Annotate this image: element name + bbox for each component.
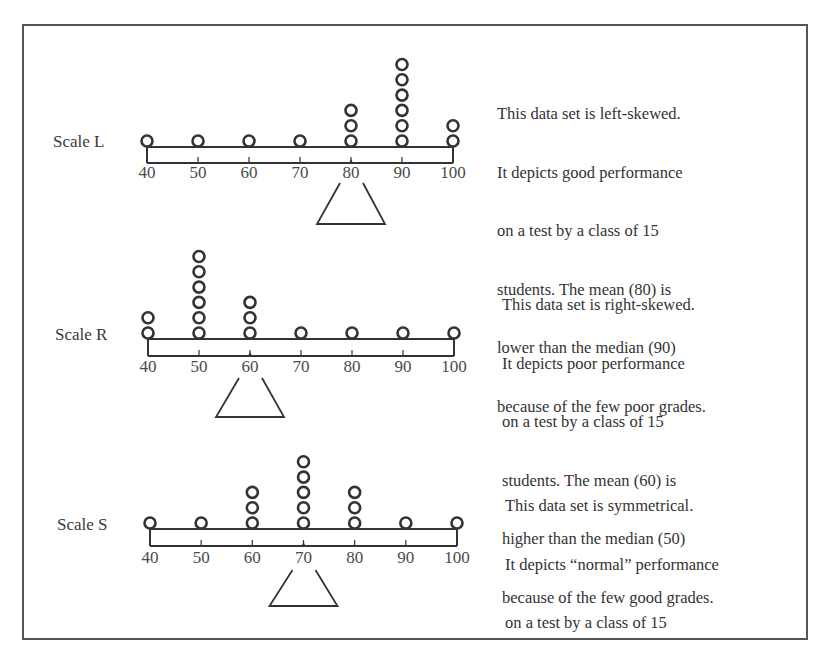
data-point-circle xyxy=(194,282,205,293)
data-point-circle xyxy=(143,312,154,323)
fulcrum-stand xyxy=(216,378,284,417)
desc-line: It depicts good performance xyxy=(497,163,706,183)
data-point-circle xyxy=(397,105,408,116)
desc-line: on a test by a class of 15 xyxy=(505,613,719,633)
data-point-circle xyxy=(298,502,309,513)
data-point-circle xyxy=(143,328,154,339)
fulcrum-stand xyxy=(270,570,338,606)
data-point-circle xyxy=(452,518,463,529)
tick-label: 70 xyxy=(295,548,312,567)
scale-label: Scale L xyxy=(53,132,104,151)
data-point-circle xyxy=(194,266,205,277)
scale-label: Scale S xyxy=(57,515,108,534)
data-point-circle xyxy=(194,251,205,262)
data-point-circle xyxy=(296,328,307,339)
tick-label: 40 xyxy=(140,357,157,376)
data-point-circle xyxy=(145,518,156,529)
data-point-circle xyxy=(298,456,309,467)
data-point-circle xyxy=(349,502,360,513)
data-point-circle xyxy=(298,518,309,529)
data-point-circle xyxy=(397,59,408,70)
tick-label: 70 xyxy=(292,163,309,182)
tick-label: 90 xyxy=(395,357,412,376)
fulcrum-pointer xyxy=(248,352,252,356)
tick-label: 60 xyxy=(241,163,258,182)
data-point-circle xyxy=(349,487,360,498)
data-point-circle xyxy=(298,472,309,483)
tick-label: 80 xyxy=(344,357,361,376)
desc-line: It depicts “normal” performance xyxy=(505,555,719,575)
desc-line: This data set is symmetrical. xyxy=(505,496,719,516)
fulcrum-stand xyxy=(317,183,385,224)
data-point-circle xyxy=(397,90,408,101)
data-point-circle xyxy=(196,518,207,529)
tick-label: 60 xyxy=(242,357,259,376)
fulcrum-pointer xyxy=(302,542,306,546)
data-point-circle xyxy=(247,518,258,529)
tick-label: 50 xyxy=(190,163,207,182)
tick-label: 80 xyxy=(343,163,360,182)
tick-label: 100 xyxy=(441,357,467,376)
data-point-circle xyxy=(346,120,357,131)
tick-label: 40 xyxy=(142,548,159,567)
tick-label: 40 xyxy=(139,163,156,182)
description-scale-s: This data set is symmetrical. It depicts… xyxy=(505,457,719,656)
data-point-circle xyxy=(245,297,256,308)
tick-label: 50 xyxy=(193,548,210,567)
data-point-circle xyxy=(194,297,205,308)
desc-line: on a test by a class of 15 xyxy=(497,221,706,241)
data-point-circle xyxy=(194,328,205,339)
data-point-circle xyxy=(397,136,408,147)
data-point-circle xyxy=(400,518,411,529)
data-point-circle xyxy=(347,328,358,339)
tick-label: 60 xyxy=(244,548,261,567)
data-point-circle xyxy=(397,120,408,131)
fulcrum-pointer xyxy=(349,159,353,163)
data-point-circle xyxy=(298,487,309,498)
data-point-circle xyxy=(449,328,460,339)
data-point-circle xyxy=(398,328,409,339)
data-point-circle xyxy=(346,136,357,147)
desc-line: This data set is right-skewed. xyxy=(502,295,714,315)
data-point-circle xyxy=(142,136,153,147)
tick-label: 100 xyxy=(440,163,466,182)
scale-label: Scale R xyxy=(55,325,108,344)
data-point-circle xyxy=(295,136,306,147)
data-point-circle xyxy=(193,136,204,147)
tick-label: 80 xyxy=(346,548,363,567)
data-point-circle xyxy=(397,74,408,85)
data-point-circle xyxy=(346,105,357,116)
data-point-circle xyxy=(247,487,258,498)
data-point-circle xyxy=(448,136,459,147)
tick-label: 90 xyxy=(394,163,411,182)
tick-label: 50 xyxy=(191,357,208,376)
data-point-circle xyxy=(448,120,459,131)
data-point-circle xyxy=(349,518,360,529)
data-point-circle xyxy=(247,502,258,513)
tick-label: 70 xyxy=(293,357,310,376)
data-point-circle xyxy=(245,328,256,339)
tick-label: 100 xyxy=(444,548,470,567)
tick-label: 90 xyxy=(397,548,414,567)
desc-line: on a test by a class of 15 xyxy=(502,412,714,432)
data-point-circle xyxy=(245,312,256,323)
data-point-circle xyxy=(244,136,255,147)
desc-line: It depicts poor performance xyxy=(502,354,714,374)
data-point-circle xyxy=(194,312,205,323)
desc-line: This data set is left-skewed. xyxy=(497,104,706,124)
